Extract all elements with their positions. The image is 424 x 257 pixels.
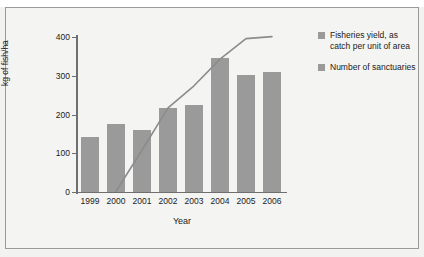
- x-axis-line: [76, 192, 287, 193]
- legend-item: Fisheries yield, as catch per unit of ar…: [318, 30, 418, 51]
- partial-caption-text: · · · · · ·: [26, 0, 53, 2]
- y-axis-tick-label: 100: [56, 148, 70, 158]
- y-axis-tick: [72, 192, 76, 193]
- x-axis-tick-label: 2006: [257, 196, 287, 206]
- square-swatch-icon: [318, 32, 325, 39]
- line-series: [77, 37, 285, 192]
- y-axis-tick: [72, 37, 76, 38]
- legend-item-label: Fisheries yield, as catch per unit of ar…: [330, 30, 418, 51]
- y-axis-tick: [72, 115, 76, 116]
- y-axis-label: kg of fish/ha: [0, 40, 10, 86]
- fisheries-yield-line: [116, 37, 272, 192]
- square-swatch-icon: [318, 64, 325, 71]
- y-axis-tick-label: 200: [56, 110, 70, 120]
- y-axis-tick-label: 300: [56, 71, 70, 81]
- chart-legend: Fisheries yield, as catch per unit of ar…: [318, 30, 418, 84]
- y-axis-tick: [72, 76, 76, 77]
- plot-area: [77, 37, 285, 192]
- top-white-strip: [0, 0, 424, 7]
- y-axis-tick-label: 0: [65, 187, 70, 197]
- y-axis-tick-label: 400: [56, 32, 70, 42]
- chart-frame: 0100200300400 kg of fish/ha 199920002001…: [5, 7, 419, 249]
- chart-figure: · · · · · · 0100200300400 kg of fish/ha …: [0, 0, 424, 257]
- x-axis-label: Year: [6, 216, 358, 226]
- legend-item: Number of sanctuaries: [318, 62, 418, 73]
- y-axis-tick: [72, 153, 76, 154]
- legend-item-label: Number of sanctuaries: [330, 62, 416, 73]
